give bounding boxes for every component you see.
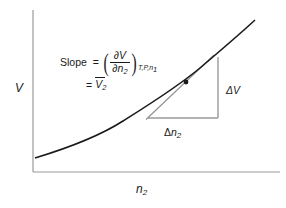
delta-v-label: ΔV (226, 84, 240, 96)
fraction-denominator: ∂n2 (110, 62, 129, 76)
partial-molar-volume-symbol: V2 (95, 79, 106, 92)
slope-word: Slope (60, 57, 87, 69)
x-axis-label: n2 (136, 182, 147, 197)
held-constant-main: T,P,n (138, 64, 153, 71)
equals-sign-1: = (93, 57, 99, 69)
partial-molar-subscript: 2 (102, 83, 106, 92)
partial-molar-volume-figure: V n2 ΔV Δn2 Slope = ( ∂V ∂n2 ) T,P,n1 = … (0, 0, 286, 208)
numerator-variable: V (119, 49, 126, 61)
x-axis-label-subscript: 2 (143, 188, 147, 197)
held-constant-tail: 1 (153, 65, 157, 74)
delta-n2-delta-glyph: Δ (164, 126, 171, 138)
fraction-numerator: ∂V (112, 50, 128, 62)
denominator-subscript: 2 (123, 67, 127, 76)
slope-equation-line-2: = V2 (60, 79, 157, 92)
held-constant-subscript: T,P,n1 (138, 64, 157, 76)
partial-derivative-fraction: ∂V ∂n2 (110, 50, 129, 76)
plot-canvas (0, 0, 286, 208)
slope-equation-block: Slope = ( ∂V ∂n2 ) T,P,n1 = V2 (60, 50, 157, 92)
x-axis-label-base: n (136, 182, 143, 196)
delta-n2-subscript: 2 (177, 131, 181, 140)
delta-n2-label: Δn2 (164, 126, 181, 140)
tangent-point-marker (184, 80, 189, 85)
equals-sign-2: = (86, 80, 92, 92)
slope-equation-line-1: Slope = ( ∂V ∂n2 ) T,P,n1 (60, 50, 157, 76)
y-axis-label: V (15, 81, 23, 95)
